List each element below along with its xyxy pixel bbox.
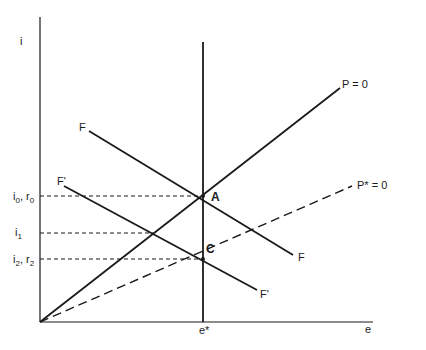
f-prime-start-label: F' <box>57 175 66 187</box>
p-star-zero-line <box>40 186 352 322</box>
i0-r0-label: i0, r0 <box>13 190 35 205</box>
point-c-marker <box>201 257 205 261</box>
y-axis-label: i <box>20 35 22 47</box>
x-axis-label: e <box>365 323 371 335</box>
exchange-rate-interest-rate-diagram: i e e* P = 0 P* = 0 F F F' F' i0, r0 i1 … <box>0 0 426 350</box>
p-zero-label: P = 0 <box>342 78 368 90</box>
f-prime-line <box>64 186 257 290</box>
p-star-zero-label: P* = 0 <box>357 179 387 191</box>
point-a-label: A <box>211 190 220 204</box>
point-c-label: C <box>206 242 215 256</box>
e-star-label: e* <box>199 324 210 336</box>
i1-label: i1 <box>15 226 22 241</box>
point-a-marker <box>201 194 205 198</box>
f-line-end-label: F <box>298 251 305 263</box>
f-prime-end-label: F' <box>260 288 269 300</box>
i2-r2-label: i2, r2 <box>13 253 35 268</box>
f-line-start-label: F <box>79 121 86 133</box>
